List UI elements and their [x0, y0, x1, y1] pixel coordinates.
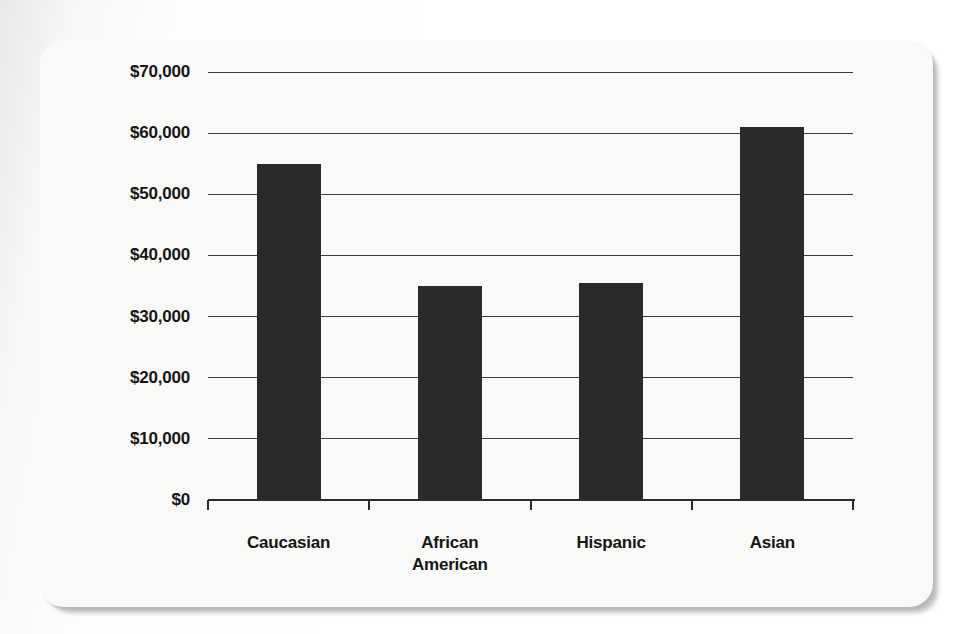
- x-axis-tick: [207, 500, 209, 510]
- y-axis-tick-label: $40,000: [70, 245, 190, 265]
- bar-asian: [740, 127, 804, 499]
- gridline: [208, 72, 853, 73]
- x-axis-tick: [530, 500, 532, 510]
- chart-panel: $0$10,000$20,000$30,000$40,000$50,000$60…: [40, 40, 933, 607]
- y-axis-tick-label: $10,000: [70, 429, 190, 449]
- y-axis-tick-label: $70,000: [70, 62, 190, 82]
- page-background: $0$10,000$20,000$30,000$40,000$50,000$60…: [0, 0, 969, 634]
- y-axis-tick-label: $50,000: [70, 184, 190, 204]
- y-axis-tick-label: $60,000: [70, 123, 190, 143]
- x-axis-label-african-american: African American: [395, 532, 505, 577]
- y-axis-tick-label: $0: [70, 490, 190, 510]
- x-axis-label-hispanic: Hispanic: [536, 532, 686, 554]
- x-axis-tick: [691, 500, 693, 510]
- bar-hispanic: [579, 283, 643, 499]
- x-axis-tick: [368, 500, 370, 510]
- bar-african-american: [418, 286, 482, 499]
- x-axis-label-caucasian: Caucasian: [214, 532, 364, 554]
- x-axis-label-asian: Asian: [697, 532, 847, 554]
- y-axis-tick-label: $20,000: [70, 368, 190, 388]
- bar-caucasian: [257, 164, 321, 499]
- x-axis-line: [208, 499, 855, 501]
- x-axis-tick: [852, 500, 854, 510]
- y-axis-tick-label: $30,000: [70, 307, 190, 327]
